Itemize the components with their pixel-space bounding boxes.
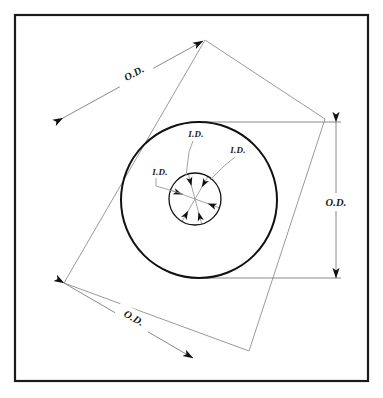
id-label-left: I.D. bbox=[151, 167, 167, 177]
id-label-top: I.D. bbox=[187, 129, 203, 139]
diagram-page: O.D. O.D. O.D. I.D. I.D. I.D. bbox=[0, 0, 383, 398]
od-label-right: O.D. bbox=[325, 197, 346, 208]
id-label-right: I.D. bbox=[229, 145, 245, 155]
technical-diagram: O.D. O.D. O.D. I.D. I.D. I.D. bbox=[0, 0, 383, 398]
